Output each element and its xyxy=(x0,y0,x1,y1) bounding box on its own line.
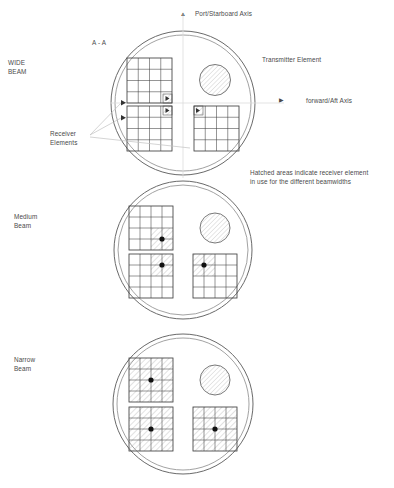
right-triangle-icon xyxy=(121,115,126,121)
center-dot xyxy=(148,426,153,431)
upper-left-array xyxy=(127,58,172,103)
transmitter-element xyxy=(200,213,230,243)
lower-left-array xyxy=(129,254,173,298)
transmitter-element xyxy=(200,65,231,96)
panel-label-narrow: Narrow Beam xyxy=(14,355,35,373)
center-dot xyxy=(159,262,164,267)
axis-label-horizontal: forward/Aft Axis xyxy=(306,96,352,105)
panel-label-medium: Medium Beam xyxy=(14,212,37,230)
callout-receiver: Receiver Elements xyxy=(50,129,77,147)
hull-outer-circle xyxy=(113,334,253,474)
center-dot xyxy=(159,236,164,241)
lower-right-array xyxy=(193,407,237,451)
center-dot xyxy=(212,426,217,431)
receiver-leader-lines xyxy=(90,103,190,148)
upper-left-array xyxy=(129,206,173,250)
lower-right-array xyxy=(194,106,239,151)
lower-left-array xyxy=(129,407,173,451)
panel-narrow-beam xyxy=(104,332,288,484)
transmitter-element xyxy=(200,365,230,395)
lower-right-array xyxy=(193,254,237,298)
axis-label-vertical: Port/Starboard Axis xyxy=(195,9,252,18)
center-dot xyxy=(148,377,153,382)
lower-left-array xyxy=(127,106,172,151)
right-triangle-icon xyxy=(121,100,126,106)
panel-label-wide: WIDE BEAM xyxy=(8,58,27,76)
center-dot xyxy=(201,262,206,267)
panel-wide-beam xyxy=(104,30,288,180)
panel-medium-beam xyxy=(104,180,288,328)
upper-left-array xyxy=(129,358,173,402)
